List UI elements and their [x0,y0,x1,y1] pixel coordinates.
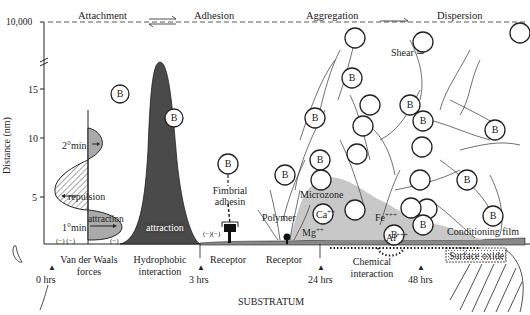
hydrophobic-peak [120,62,200,244]
bacterium-label: B [279,169,291,180]
time-48hrs: 48 hrs [408,274,433,285]
surface-charges-receptor: (−)(−) [203,229,220,240]
y-tick-10: 10 [28,133,38,144]
time-arrow-0: ▲ [48,262,56,273]
adhesin-label: adhesin [208,196,252,207]
attraction-large-label: attraction [145,222,185,233]
bacterium-label: B [489,124,501,135]
substratum-label: SUBSTRATUM [238,296,304,307]
conditioning-film-label: Conditioning film [447,226,519,237]
chemical-label: Chemical [342,256,402,267]
receptor-label-2: Receptor [266,254,302,265]
y-tick-15: 15 [28,84,38,95]
phase-adhesion: Adhesion [194,10,234,21]
hydrophobic-label: Hydrophobic [130,254,190,265]
repulsion-label: repulsion [68,191,105,202]
secondary-minimum-label: 2°min [62,140,87,151]
y-tick-10000: 10,000 [6,17,32,28]
attraction-small-label: attraction [88,214,124,225]
phase-aggregation: Aggregation [306,10,359,21]
time-0hrs: 0 hrs [36,274,56,285]
primary-minimum-label: 1°min [62,222,87,233]
surface-charges-left: (−) (−) [56,236,75,247]
shear-label: Shear ⇒ [391,47,425,58]
bacterium-label: B [346,72,358,83]
hydrophobic-interaction-label: interaction [130,266,190,277]
time-arrow-24: ▲ [317,262,325,273]
surface-oxide-label: Surface oxide [449,250,504,261]
bacterium-label: B [404,99,416,110]
forces-label: forces [52,266,126,277]
bacterium-label: B [487,210,499,221]
fimbrial-label: Fimbrial [208,185,252,196]
y-tick-5: 5 [32,192,37,203]
bacterium-label: B [461,174,473,185]
y-axis-label: Distance (nm) [1,117,12,174]
phase-attachment: Attachment [78,10,127,21]
bacterium-label: B [417,115,429,126]
time-24hrs: 24 hrs [308,274,333,285]
time-arrow-3: ▲ [197,262,205,273]
bacterium-label: B [309,112,321,123]
van-der-waals-label: Van der Waals [52,254,126,265]
iron-ion-label: Fe+++ [375,210,397,223]
bacterium-label: B [314,154,326,165]
time-3hrs: 3 hrs [189,274,209,285]
bacterium-label: B [222,158,234,169]
bacterium-label: B [417,219,429,230]
time-arrow-48: ▲ [417,262,425,273]
surface-charge-mid: (−) [110,236,119,247]
microzone-label: Microzone [300,189,343,200]
magnesium-ion-label: Mg++ [302,225,324,238]
chemical-interaction-label: interaction [342,268,402,279]
phase-dispersion: Dispersion [437,10,483,21]
polymer-label: Polymer [262,212,296,223]
bacterium-label: B [114,88,126,99]
calcium-ion-label: Ca++ [316,207,335,220]
receptor-label-1: Receptor [210,254,246,265]
bacterium-label: B [168,112,180,123]
bacterium-label: B [388,229,400,240]
